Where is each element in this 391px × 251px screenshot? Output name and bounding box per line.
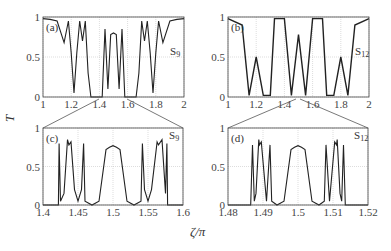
- y-tick-label: 1: [220, 122, 226, 134]
- sequence-label: S9: [169, 129, 179, 143]
- x-tick-label: 1.5: [106, 206, 120, 218]
- x-tick-label: 1.52: [358, 206, 377, 218]
- x-tick-label: 1.5: [291, 206, 305, 218]
- panel-b: 11.21.41.61.8200.51(b)S12: [211, 11, 372, 110]
- x-tick-label: 1.2: [64, 98, 78, 110]
- y-tick-label: 0.5: [26, 51, 40, 63]
- x-tick-label: 1.51: [323, 206, 342, 218]
- x-axis-label: ζ/π: [190, 224, 206, 239]
- y-tick-label: 1: [35, 11, 41, 23]
- y-tick-label: 0: [35, 199, 41, 211]
- y-tick-label: 0: [220, 199, 226, 211]
- x-tick-label: 1.4: [93, 98, 107, 110]
- x-tick-label: 1.8: [149, 98, 163, 110]
- figure: 11.21.41.61.8200.51(a)S911.21.41.61.8200…: [0, 0, 391, 251]
- y-tick-label: 0.5: [211, 51, 225, 63]
- sequence-label: S12: [355, 45, 369, 59]
- panel-label: (a): [46, 21, 59, 34]
- sequence-label: S12: [354, 129, 368, 143]
- panel-label: (c): [46, 132, 59, 145]
- x-tick-label: 1.49: [253, 206, 273, 218]
- panel-a: 11.21.41.61.8200.51(a)S9: [26, 11, 187, 110]
- x-tick-label: 1.8: [334, 98, 348, 110]
- x-tick-label: 1: [40, 98, 46, 110]
- transmission-curve: [43, 19, 184, 97]
- x-tick-label: 1.55: [138, 206, 158, 218]
- panel-label: (d): [231, 132, 244, 145]
- x-tick-label: 1.45: [68, 206, 88, 218]
- x-tick-label: 1.6: [176, 206, 190, 218]
- y-tick-label: 1: [35, 122, 41, 134]
- x-tick-label: 1.6: [306, 98, 320, 110]
- y-tick-label: 0.5: [211, 161, 225, 173]
- y-tick-label: 0: [35, 91, 41, 103]
- y-axis-label: T: [2, 114, 17, 122]
- x-tick-label: 1.2: [249, 98, 263, 110]
- sequence-label: S9: [170, 45, 180, 59]
- panel-d: 1.481.491.51.511.5200.51(d)S12: [211, 122, 377, 218]
- y-tick-label: 0.5: [26, 161, 40, 173]
- x-tick-label: 1: [225, 98, 231, 110]
- x-tick-label: 2: [366, 98, 372, 110]
- panel-label: (b): [231, 21, 244, 34]
- panel-c: 1.41.451.51.551.600.51(c)S9: [26, 122, 190, 218]
- y-tick-label: 0: [220, 91, 226, 103]
- y-tick-label: 1: [220, 11, 226, 23]
- x-tick-label: 2: [181, 98, 187, 110]
